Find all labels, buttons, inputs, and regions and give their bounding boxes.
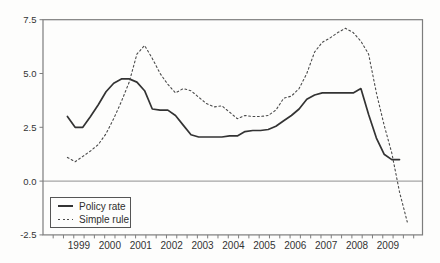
legend-label-policy-rate: Policy rate (79, 201, 126, 212)
legend-item-policy-rate: Policy rate (58, 201, 130, 212)
x-axis-label: 2001 (130, 240, 153, 251)
policy-rate-line (67, 79, 399, 160)
x-axis-label: 2005 (253, 240, 276, 251)
x-axis-label: 2004 (222, 240, 245, 251)
x-axis-label: 2002 (161, 240, 184, 251)
x-axis-label: 2008 (346, 240, 369, 251)
x-axis-label: 2003 (191, 240, 214, 251)
y-axis-label: -2.5 (20, 229, 36, 240)
y-axis-label: 5.0 (23, 68, 36, 79)
y-axis-label: 7.5 (23, 14, 36, 25)
simple-rule-line (67, 28, 407, 222)
chart-legend: Policy rate Simple rule (50, 197, 131, 228)
simple-rule-line-sample (58, 219, 73, 220)
chart-figure: 7.55.02.50.0-2.5199920002001200220032004… (0, 0, 440, 263)
y-axis-label: 0.0 (23, 176, 36, 187)
legend-item-simple-rule: Simple rule (58, 214, 130, 225)
x-axis-label: 2009 (377, 240, 400, 251)
x-axis-label: 2007 (315, 240, 338, 251)
x-axis-label: 2006 (284, 240, 307, 251)
x-axis-label: 2000 (99, 240, 122, 251)
legend-label-simple-rule: Simple rule (79, 214, 129, 225)
x-axis-label: 1999 (68, 240, 91, 251)
y-axis-label: 2.5 (23, 122, 36, 133)
policy-rate-line-sample (58, 205, 73, 207)
